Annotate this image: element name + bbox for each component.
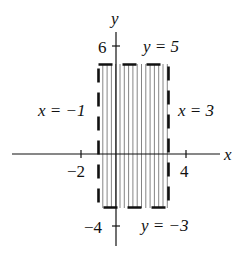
tick-label-neg2: −2 xyxy=(67,162,85,181)
label-right-boundary: x = 3 xyxy=(177,101,214,120)
label-top-boundary: y = 5 xyxy=(141,37,179,56)
axes xyxy=(12,32,220,246)
hatch-fill xyxy=(103,64,168,208)
tick-label-neg4: −4 xyxy=(84,218,103,237)
label-bottom-boundary: y = −3 xyxy=(139,216,189,235)
label-left-boundary: x = −1 xyxy=(37,101,86,120)
tick-label-6: 6 xyxy=(98,38,107,57)
tick-label-4: 4 xyxy=(180,162,189,181)
y-axis-label: y xyxy=(109,9,119,28)
x-axis-label: x xyxy=(223,145,232,164)
region-diagram: y x 6 −4 −2 4 y = 5 y = −3 x = −1 x = 3 xyxy=(0,0,237,264)
region-boundary xyxy=(99,65,169,208)
